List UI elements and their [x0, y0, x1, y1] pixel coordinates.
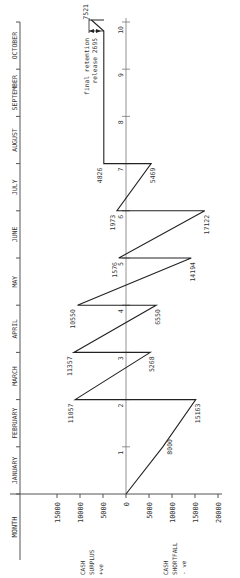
data-label: 10550	[69, 309, 77, 329]
amount-tick-label: 0	[123, 502, 131, 506]
amount-tick-label: 10000	[77, 502, 85, 523]
data-label: 4826	[96, 168, 104, 184]
month-label: JUNE	[11, 226, 19, 242]
data-label: 11057	[67, 404, 75, 424]
month-label: SEPTEMBER	[11, 75, 19, 110]
month-label: MAY	[11, 276, 19, 288]
month-label: OCTOBER	[11, 32, 19, 59]
cash-flow-chart: MONTHJANUARYFEBRUARYMARCHAPRILMAYJUNEJUL…	[0, 0, 240, 578]
month-axis-title: MONTH	[11, 516, 19, 537]
data-label: 1576	[111, 262, 119, 278]
data-label: 8000	[166, 439, 174, 455]
surplus-caption: CASH	[79, 560, 86, 575]
month-label: MARCH	[11, 366, 19, 386]
month-label: AUGUST	[11, 128, 19, 152]
data-label: 6550	[154, 309, 162, 325]
month-label: APRIL	[11, 319, 19, 339]
retention-label-line2: release 2695	[91, 38, 98, 84]
amount-tick-label: 15000	[54, 502, 62, 523]
period-marker: 9	[117, 73, 125, 77]
cash-flow-line	[74, 20, 205, 494]
data-label: 5268	[148, 356, 156, 372]
retention-total-label: 7521	[82, 4, 90, 20]
shortfall-caption: - ve	[180, 560, 187, 575]
surplus-caption: SURPLUS	[88, 549, 95, 575]
amount-tick-label: 20000	[215, 502, 223, 523]
period-marker: 4	[117, 309, 125, 313]
data-label: 1973	[109, 215, 117, 231]
period-marker: 2	[117, 404, 125, 408]
period-marker: 7	[117, 168, 125, 172]
amount-tick-label: 15000	[192, 502, 200, 523]
shortfall-caption: CASH	[162, 560, 169, 575]
data-label: 14194	[189, 262, 197, 282]
chart-canvas: MONTHJANUARYFEBRUARYMARCHAPRILMAYJUNEJUL…	[0, 0, 240, 578]
period-marker: 3	[117, 356, 125, 360]
month-label: FEBRUARY	[11, 407, 19, 438]
period-marker: 10	[117, 26, 125, 34]
arrow-left-icon	[89, 29, 94, 33]
data-label: 15163	[194, 404, 202, 424]
amount-tick-label: 5000	[146, 502, 154, 519]
period-marker: 1	[117, 451, 125, 455]
arrow-right-icon	[96, 29, 101, 33]
period-marker: 8	[117, 120, 125, 124]
amount-tick-label: 10000	[169, 502, 177, 523]
amount-tick-label: 5000	[100, 502, 108, 519]
month-label: JULY	[11, 179, 19, 195]
data-label: 17122	[203, 215, 211, 235]
retention-label-line1: final retention	[83, 38, 90, 95]
surplus-caption: +ve	[97, 564, 104, 575]
data-label: 11357	[66, 356, 74, 376]
period-marker: 6	[117, 215, 125, 219]
data-label: 5469	[149, 168, 157, 184]
month-label: JANUARY	[11, 457, 19, 484]
shortfall-caption: SHORTFALL	[171, 542, 178, 575]
